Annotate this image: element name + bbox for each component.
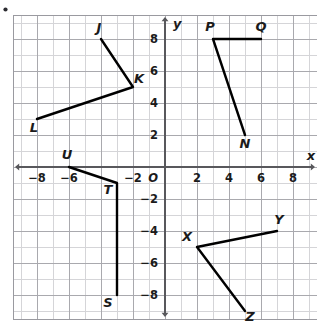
y-tick-label: 6 — [150, 64, 158, 78]
bullet-dot-icon — [3, 7, 7, 11]
vertex-label-k: K — [134, 71, 145, 86]
origin-label: O — [148, 171, 158, 185]
y-tick-label: −8 — [140, 288, 158, 302]
x-tick-label: 2 — [193, 171, 201, 185]
x-tick-label: 6 — [257, 171, 265, 185]
bullet-marker — [3, 7, 7, 11]
vertex-label-y: Y — [274, 212, 285, 227]
x-axis-arrow-right — [311, 164, 315, 171]
x-tick-label: −6 — [60, 171, 78, 185]
vertex-label-u: U — [62, 147, 73, 162]
y-axis-arrow-up — [162, 17, 169, 21]
x-tick-label: −2 — [124, 171, 142, 185]
coordinate-plane-svg: −8−6−224688642−2−4−6−8O JKLQPNUTSYXZ yx — [0, 0, 317, 328]
coordinate-plane-figure: −8−6−224688642−2−4−6−8O JKLQPNUTSYXZ yx — [0, 0, 317, 328]
x-tick-label: 8 — [289, 171, 297, 185]
vertex-label-p: P — [205, 19, 215, 34]
y-tick-label: −4 — [140, 224, 158, 238]
vertex-label-j: J — [94, 20, 102, 35]
vertex-label-x: X — [181, 229, 193, 244]
vertex-label-n: N — [240, 136, 251, 151]
x-axis-arrow-left — [15, 164, 19, 171]
x-axis-name: x — [306, 148, 316, 163]
y-tick-label: 4 — [150, 96, 158, 110]
figure-xyz-polyline — [197, 231, 277, 311]
vertex-label-z: Z — [244, 309, 255, 324]
axes — [15, 17, 315, 317]
y-axis-name: y — [173, 16, 182, 31]
y-tick-label: −6 — [140, 256, 158, 270]
y-tick-label: 8 — [150, 32, 158, 46]
y-axis-arrow-down — [162, 313, 169, 317]
y-tick-label: −2 — [140, 192, 158, 206]
vertex-label-l: L — [30, 120, 38, 135]
x-tick-label: −8 — [28, 171, 46, 185]
vertex-label-q: Q — [255, 19, 266, 34]
x-tick-label: 4 — [225, 171, 233, 185]
vertex-label-t: T — [104, 182, 114, 197]
vertex-label-s: S — [103, 295, 112, 310]
y-tick-label: 2 — [150, 128, 158, 142]
